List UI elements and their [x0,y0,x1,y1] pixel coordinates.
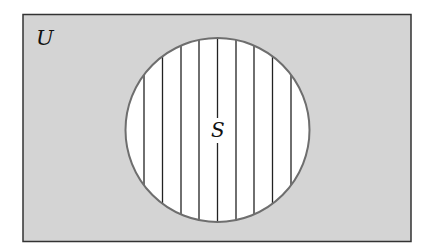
venn-diagram: U S [0,0,424,251]
universe-label: U [36,26,55,50]
set-s-label: S [211,118,225,142]
